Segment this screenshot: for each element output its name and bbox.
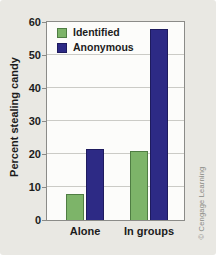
bar-identified-alone: [66, 194, 84, 220]
legend-label: Anonymous: [73, 42, 134, 53]
legend-label: Identified: [73, 27, 120, 38]
y-tick-label-40: 40: [0, 82, 41, 94]
y-axis-title: Percent stealing candy: [8, 57, 20, 177]
y-tick-label-10: 10: [0, 181, 41, 193]
y-tick-label-30: 30: [0, 115, 41, 127]
x-axis-label-alone: Alone: [53, 225, 117, 238]
x-axis-label-in-groups: In groups: [117, 225, 181, 238]
y-tick-label-20: 20: [0, 148, 41, 160]
bar-anonymous-in-groups: [150, 29, 168, 220]
plot-area: IdentifiedAnonymous: [46, 21, 185, 221]
legend-swatch-icon: [57, 43, 67, 53]
legend: IdentifiedAnonymous: [57, 27, 134, 57]
legend-item-anonymous: Anonymous: [57, 42, 134, 53]
legend-item-identified: Identified: [57, 27, 134, 38]
copyright-credit: © Cengage Learning: [197, 167, 206, 240]
legend-swatch-icon: [57, 28, 67, 38]
x-axis-labels: AloneIn groups: [0, 225, 216, 239]
bar-anonymous-alone: [86, 149, 104, 220]
y-tick-label-60: 60: [0, 16, 41, 28]
y-tick-label-50: 50: [0, 49, 41, 61]
bar-identified-in-groups: [130, 151, 148, 220]
figure: Percent stealing candy 0102030405060 Ide…: [0, 0, 216, 255]
